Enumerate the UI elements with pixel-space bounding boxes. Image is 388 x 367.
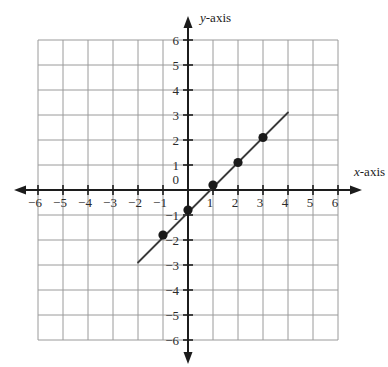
y-axis-arrow-up [184,16,193,28]
x-axis-label-suffix: -axis [360,164,385,179]
x-axis-label: x-axis [353,164,385,179]
data-point [158,230,167,239]
y-axis-tick-label: −4 [165,283,179,298]
data-point [183,205,192,214]
coordinate-plane-svg: −6−5−4−3−2−1123456654321−1−2−3−4−5−60 x-… [0,0,388,367]
x-axis-arrow-right [350,186,362,195]
y-axis-tick-label: 5 [173,58,180,73]
x-axis-tick-label: 1 [207,195,214,210]
x-axis-tick-label: −5 [53,195,67,210]
y-axis-tick-label: −3 [165,258,179,273]
x-axis-tick-label: −3 [103,195,117,210]
y-axis-tick-label: −5 [165,308,179,323]
x-axis-tick-label: 6 [332,195,339,210]
axis-name-layer: x-axisy-axis [198,10,385,179]
x-axis-tick-label: 2 [232,195,239,210]
axis-layer [14,16,362,364]
data-point [208,180,217,189]
data-point [258,133,267,142]
y-axis-label: y-axis [198,10,231,25]
x-axis-tick-label: 5 [307,195,314,210]
y-axis-tick-label: −6 [165,333,179,348]
coordinate-plane-figure: −6−5−4−3−2−1123456654321−1−2−3−4−5−60 x-… [0,0,388,367]
x-axis-tick-label: −4 [78,195,92,210]
y-axis-tick-label: 6 [173,33,180,48]
y-axis-tick-label: 2 [173,133,180,148]
y-axis-arrow-down [184,352,193,364]
y-axis-tick-label: 3 [173,108,180,123]
y-axis-tick-label: 1 [173,158,180,173]
x-axis-arrow-left [14,186,26,195]
x-axis-tick-label: 3 [257,195,264,210]
x-axis-tick-label: 4 [282,195,289,210]
y-axis-tick-label: −1 [165,208,179,223]
y-axis-label-suffix: -axis [206,10,231,25]
origin-label: 0 [173,172,180,187]
data-point [233,158,242,167]
y-axis-tick-label: 4 [173,83,180,98]
x-axis-tick-label: −2 [128,195,142,210]
x-axis-tick-label: −6 [28,195,42,210]
